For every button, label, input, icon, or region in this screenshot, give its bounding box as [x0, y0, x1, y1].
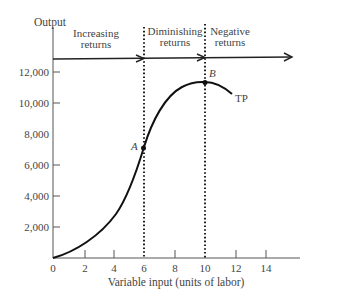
x-tick-label: 14 [261, 262, 273, 274]
y-tick-label: 8,000 [24, 128, 49, 140]
x-tick-label: 0 [50, 262, 56, 274]
point-a-marker [141, 146, 146, 151]
y-tick-label: 6,000 [24, 159, 49, 171]
y-tick-label: 2,000 [24, 221, 49, 233]
x-tick-label: 10 [200, 262, 212, 274]
x-ticks [85, 250, 266, 258]
y-axis-title: Output [34, 16, 67, 29]
x-tick-label: 12 [231, 262, 242, 274]
x-tick-label: 4 [111, 262, 117, 274]
point-b-marker [203, 80, 208, 85]
region-label-negative: returns [215, 36, 246, 48]
y-ticks [53, 72, 60, 227]
y-tick-label: 10,000 [19, 97, 50, 109]
region-label-increasing: returns [81, 38, 112, 50]
region-label-diminishing: returns [160, 36, 191, 48]
x-tick-label: 8 [172, 262, 178, 274]
x-axis-title: Variable input (units of labor) [108, 276, 245, 289]
region-arrows [53, 53, 292, 62]
y-tick-label: 4,000 [24, 190, 49, 202]
total-product-chart: 2,000 4,000 6,000 8,000 10,000 12,000 0 … [0, 0, 342, 303]
y-tick-label: 12,000 [19, 66, 50, 78]
point-b-label: B [209, 67, 216, 79]
x-tick-label: 2 [82, 262, 88, 274]
x-tick-label: 6 [141, 262, 147, 274]
tp-curve-label: TP [235, 92, 248, 104]
point-a-label: A [130, 140, 138, 152]
